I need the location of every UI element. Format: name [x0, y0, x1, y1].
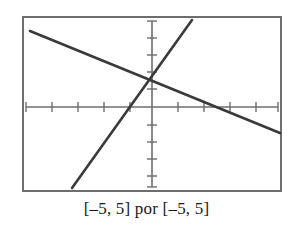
plot-svg [22, 16, 282, 192]
figure-caption: [–5, 5] por [–5, 5] [0, 198, 293, 220]
plot-area [22, 16, 282, 192]
graphing-calculator-figure: [–5, 5] por [–5, 5] [0, 0, 293, 231]
